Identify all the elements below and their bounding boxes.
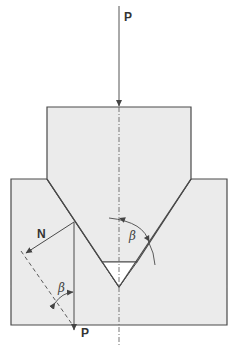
angle-label-left: β bbox=[57, 281, 65, 295]
wedge-diagram: P P N β β bbox=[0, 0, 236, 347]
load-label-bottom: P bbox=[81, 326, 89, 340]
normal-force-label: N bbox=[37, 227, 46, 241]
load-label-top: P bbox=[124, 10, 132, 24]
angle-label-right: β bbox=[128, 229, 136, 243]
